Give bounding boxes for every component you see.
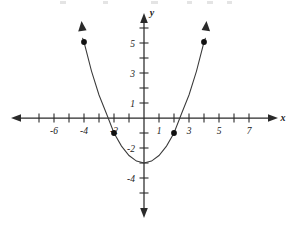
data-point-marker	[171, 130, 177, 136]
x-tick-label-5: 5	[217, 126, 222, 136]
y-tick-label--4: -4	[127, 174, 135, 184]
y-axis-group: 5 3 1 -2 -4 y	[127, 7, 155, 218]
x-tick-label--4: -4	[80, 126, 88, 136]
curve-left-arrow-icon	[78, 21, 86, 32]
y-axis-up-arrow-icon	[140, 13, 148, 23]
y-tick-label-5: 5	[130, 39, 135, 49]
curve-right-arrow-icon	[202, 21, 211, 31]
graph-figure: -6 -4 -2 1 3 5 7 x	[0, 0, 295, 226]
data-point-marker	[201, 39, 207, 45]
y-tick-label--2: -2	[127, 144, 135, 154]
x-axis-left-arrow-icon	[11, 114, 21, 122]
x-axis-group: -6 -4 -2 1 3 5 7 x	[11, 112, 286, 136]
x-tick-label-7: 7	[247, 126, 253, 136]
x-axis-right-arrow-icon	[268, 114, 278, 122]
x-tick-label-1: 1	[157, 126, 162, 136]
y-tick-label-3: 3	[129, 69, 135, 79]
coordinate-plane: -6 -4 -2 1 3 5 7 x	[0, 0, 295, 226]
x-axis-label: x	[280, 112, 286, 123]
y-axis-down-arrow-icon	[140, 208, 148, 218]
data-point-marker	[81, 39, 87, 45]
y-axis-label: y	[149, 7, 155, 18]
x-tick-label-3: 3	[186, 126, 192, 136]
x-tick-label--6: -6	[50, 126, 58, 136]
y-tick-label-1: 1	[130, 99, 135, 109]
data-point-marker	[111, 130, 117, 136]
